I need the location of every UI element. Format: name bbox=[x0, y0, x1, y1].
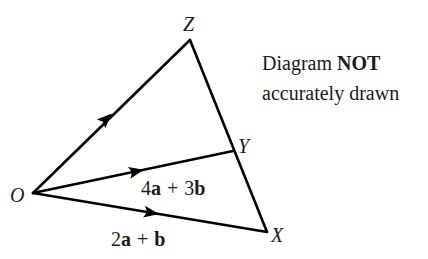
note-prefix: Diagram bbox=[262, 52, 337, 75]
note-not-emphasis: NOT bbox=[337, 52, 381, 74]
note-line-1: Diagram NOT bbox=[262, 52, 381, 75]
edge-ZX bbox=[190, 40, 267, 232]
vector-OY-op: + bbox=[167, 177, 178, 199]
vector-OY-var1: a bbox=[151, 177, 161, 199]
vector-OY-var2: b bbox=[194, 177, 205, 199]
vertex-label-O: O bbox=[10, 184, 24, 206]
vector-OX-op: + bbox=[137, 228, 148, 250]
edge-OZ bbox=[33, 40, 190, 193]
vector-OY-coef2: 3 bbox=[184, 177, 194, 199]
vector-OY-coef1: 4 bbox=[141, 177, 151, 199]
vector-diagram: Z Y X O 4a+3b 2a+b Diagram NOT accuratel… bbox=[0, 0, 428, 259]
vector-OX-var2: b bbox=[154, 228, 165, 250]
note-line-2: accurately drawn bbox=[262, 82, 399, 105]
vector-label-OY: 4a+3b bbox=[141, 177, 205, 199]
vertex-label-Z: Z bbox=[183, 13, 195, 35]
vector-OX-coef1: 2 bbox=[111, 228, 121, 250]
arrow-icon-OZ bbox=[97, 109, 116, 128]
vertex-label-X: X bbox=[270, 224, 284, 246]
vector-label-OX: 2a+b bbox=[111, 228, 165, 250]
vertex-label-Y: Y bbox=[238, 135, 251, 157]
vector-OX-var1: a bbox=[121, 228, 131, 250]
